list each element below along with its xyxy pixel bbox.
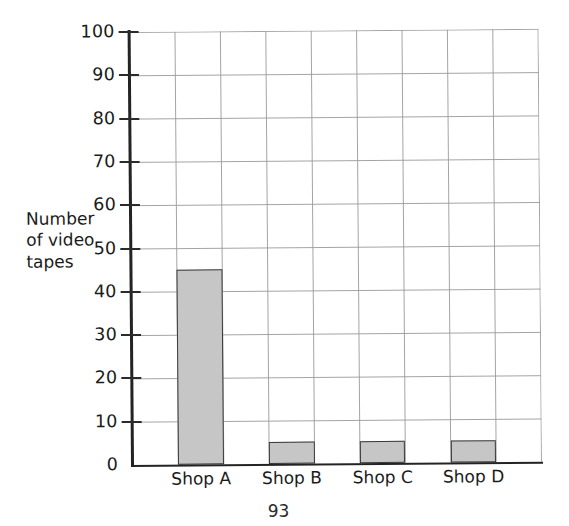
y-axis-title-line-2: of video (26, 229, 122, 251)
y-tick-label-100: 100 (69, 23, 115, 41)
y-tick-label-10: 10 (72, 413, 118, 431)
y-tick-mark (119, 31, 139, 33)
bar-chart-figure: 100 90 80 70 60 50 40 30 20 10 0 Shop A … (0, 0, 569, 526)
bar-shop-a (177, 269, 224, 464)
y-axis-title-line-1: Number (26, 208, 122, 230)
plot-block: 100 90 80 70 60 50 40 30 20 10 0 Shop A … (0, 0, 569, 501)
y-tick-label-70: 70 (70, 153, 116, 171)
y-tick-mark (120, 204, 140, 206)
page-number: 93 (0, 501, 569, 521)
y-tick-label-90: 90 (69, 66, 115, 84)
y-tick-label-40: 40 (71, 283, 117, 301)
bar-shop-d (451, 441, 497, 463)
page-number-value: 93 (268, 501, 290, 521)
y-tick-label-0: 0 (72, 456, 118, 474)
y-tick-mark (120, 161, 140, 163)
y-tick-label-30: 30 (71, 326, 117, 344)
y-tick-label-20: 20 (71, 370, 117, 388)
y-axis-title: Number of video tapes (26, 208, 123, 273)
y-tick-mark (120, 247, 140, 249)
x-category-label-shop-d: Shop D (419, 467, 529, 487)
y-tick-mark (119, 74, 139, 76)
y-tick-mark (121, 334, 141, 336)
bar-shop-c (360, 441, 406, 463)
y-axis-title-line-3: tapes (26, 251, 122, 273)
y-tick-mark (122, 421, 142, 423)
y-tick-label-80: 80 (69, 110, 115, 128)
y-tick-mark (121, 377, 141, 379)
y-tick-mark (119, 118, 139, 120)
y-tick-mark (121, 291, 141, 293)
bar-shop-b (269, 442, 315, 464)
